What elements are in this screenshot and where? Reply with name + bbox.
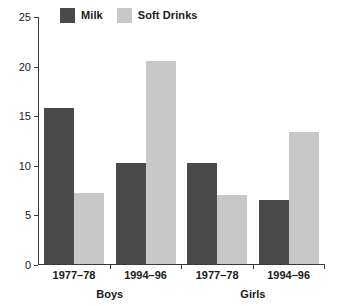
- y-tick-label: 20: [19, 61, 31, 72]
- y-tick-label: 0: [25, 260, 31, 271]
- y-tick-label: 15: [19, 111, 31, 122]
- y-tick-mark: [34, 166, 38, 167]
- x-axis-period-label-4: 1994–96: [267, 270, 310, 281]
- y-tick-label: 5: [25, 210, 31, 221]
- y-tick-label: 25: [19, 12, 31, 23]
- x-axis-group-label-girls: Girls: [240, 289, 265, 300]
- x-tick-mark: [253, 265, 254, 269]
- y-tick-mark: [34, 215, 38, 216]
- bar-boys-1994-96-milk: [116, 163, 146, 264]
- y-tick-mark: [34, 116, 38, 117]
- y-axis-line: [38, 17, 39, 265]
- x-tick-mark: [110, 265, 111, 269]
- x-axis-group-label-boys: Boys: [96, 289, 123, 300]
- y-tick-mark: [34, 265, 38, 266]
- bar-girls-1994-96-soft-drinks: [289, 132, 319, 264]
- x-tick-mark: [181, 265, 182, 269]
- x-axis-period-label-3: 1977–78: [196, 270, 239, 281]
- x-axis-period-label-1: 1977–78: [53, 270, 96, 281]
- y-tick-mark: [34, 67, 38, 68]
- bar-boys-1977-78-milk: [44, 108, 74, 264]
- bar-boys-1994-96-soft-drinks: [146, 61, 176, 264]
- bar-girls-1994-96-milk: [259, 200, 289, 264]
- bar-chart: Milk Soft Drinks 0510152025 1977–781994–…: [0, 0, 341, 306]
- bar-girls-1977-78-milk: [187, 163, 217, 264]
- y-tick-mark: [34, 17, 38, 18]
- bar-girls-1977-78-soft-drinks: [217, 195, 247, 264]
- bar-boys-1977-78-soft-drinks: [74, 193, 104, 264]
- y-tick-label: 10: [19, 160, 31, 171]
- x-tick-mark: [324, 265, 325, 269]
- plot-area: 0510152025: [38, 17, 325, 265]
- x-axis-period-label-2: 1994–96: [124, 270, 167, 281]
